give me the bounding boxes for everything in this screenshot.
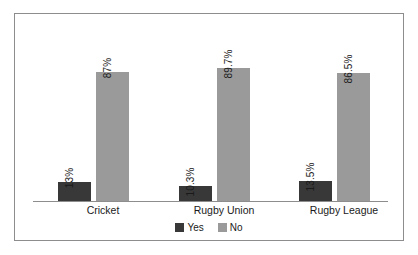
legend-label: No [230, 222, 243, 233]
legend-item-yes[interactable]: Yes [175, 222, 203, 233]
chart-legend: Yes No [15, 222, 403, 233]
chart-plot-frame: 13% 87% Cricket 10.3% 89.7% Rugby Union [14, 13, 404, 241]
bar-group-rugby-league: 13.5% 86.5% Rugby League [284, 14, 404, 201]
category-label-rugby-league: Rugby League [284, 204, 404, 216]
bar-cricket-no[interactable]: 87% [96, 72, 129, 201]
category-label-cricket: Cricket [43, 204, 163, 216]
plot-area: 13% 87% Cricket 10.3% 89.7% Rugby Union [15, 14, 403, 240]
legend-item-no[interactable]: No [218, 222, 243, 233]
bar-rugby-league-no[interactable]: 86.5% [337, 73, 370, 201]
bar-rugby-league-yes[interactable]: 13.5% [299, 181, 332, 201]
bar-value-label: 10.3% [186, 168, 196, 197]
bar-rugby-union-no[interactable]: 89.7% [217, 68, 250, 201]
bar-value-label: 87% [103, 58, 113, 78]
bar-rugby-union-yes[interactable]: 10.3% [179, 186, 212, 201]
bar-group-cricket: 13% 87% Cricket [43, 14, 163, 201]
legend-label: Yes [187, 222, 203, 233]
bar-cricket-yes[interactable]: 13% [58, 182, 91, 201]
bar-value-label: 13% [65, 168, 75, 188]
legend-swatch-icon [218, 223, 227, 232]
chart-root: 13% 87% Cricket 10.3% 89.7% Rugby Union [0, 0, 418, 255]
bar-value-label: 89.7% [224, 50, 234, 79]
legend-swatch-icon [175, 223, 184, 232]
bar-value-label: 13.5% [306, 163, 316, 192]
bar-group-rugby-union: 10.3% 89.7% Rugby Union [164, 14, 284, 201]
bar-value-label: 86.5% [344, 55, 354, 84]
category-label-rugby-union: Rugby Union [164, 204, 284, 216]
category-axis-line [33, 201, 388, 202]
